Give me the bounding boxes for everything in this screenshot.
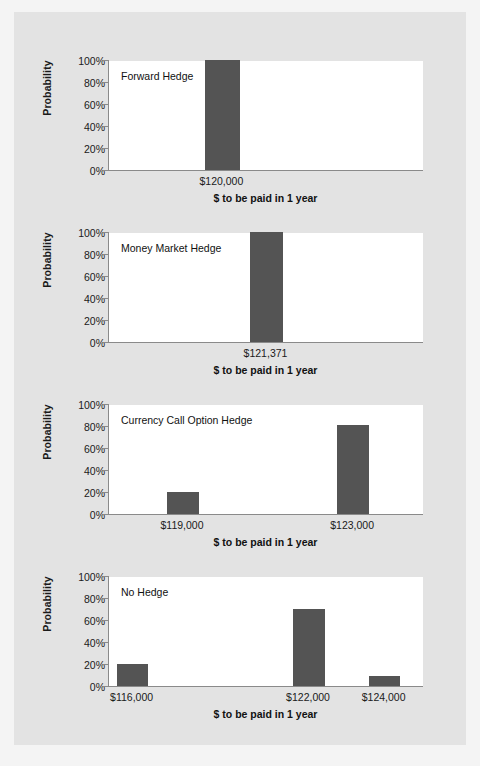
y-tick-mark: [103, 576, 109, 577]
y-tick-label: 60%: [52, 615, 105, 627]
x-tick-label: $122,000: [286, 691, 330, 703]
y-tick-label: 40%: [52, 293, 105, 305]
y-tick-label: 20%: [52, 143, 105, 155]
plot-area: No Hedge: [108, 577, 423, 687]
plot-title: Forward Hedge: [121, 70, 193, 82]
y-tick-mark: [103, 298, 109, 299]
x-axis-tick-labels: $121,371: [108, 347, 423, 363]
y-axis-tick-labels: 0%20%40%60%80%100%: [52, 405, 105, 515]
y-tick-mark: [103, 60, 109, 61]
y-tick-mark: [103, 342, 109, 343]
y-tick-label: 80%: [52, 77, 105, 89]
x-tick-label: $116,000: [110, 691, 153, 703]
plot-title: No Hedge: [121, 586, 168, 598]
x-axis-tick-labels: $116,000$122,000$124,000: [108, 691, 423, 707]
y-tick-label: 100%: [52, 227, 105, 239]
y-tick-mark: [103, 232, 109, 233]
y-tick-label: 80%: [52, 249, 105, 261]
bar: [167, 492, 199, 514]
plot-area: Currency Call Option Hedge: [108, 405, 423, 515]
y-tick-label: 60%: [52, 99, 105, 111]
y-tick-mark: [103, 492, 109, 493]
y-tick-label: 100%: [52, 55, 105, 67]
y-tick-mark: [103, 448, 109, 449]
y-tick-mark: [103, 82, 109, 83]
y-tick-label: 80%: [52, 421, 105, 433]
y-tick-label: 20%: [52, 659, 105, 671]
x-axis-title: $ to be paid in 1 year: [108, 708, 423, 720]
y-tick-mark: [103, 170, 109, 171]
bar: [250, 232, 283, 342]
plot-title: Currency Call Option Hedge: [121, 414, 252, 426]
y-tick-label: 100%: [52, 399, 105, 411]
chart-forward-hedge: Probability 0%20%40%60%80%100% Forward H…: [14, 34, 466, 204]
chart-money-market-hedge: Probability 0%20%40%60%80%100% Money Mar…: [14, 206, 466, 376]
y-tick-mark: [103, 254, 109, 255]
x-axis-title: $ to be paid in 1 year: [108, 536, 423, 548]
y-tick-mark: [103, 148, 109, 149]
y-tick-label: 20%: [52, 487, 105, 499]
x-axis-tick-labels: $120,000: [108, 175, 423, 191]
y-tick-mark: [103, 104, 109, 105]
y-tick-label: 40%: [52, 637, 105, 649]
y-tick-label: 60%: [52, 443, 105, 455]
y-tick-mark: [103, 470, 109, 471]
y-axis-tick-labels: 0%20%40%60%80%100%: [52, 61, 105, 171]
bar: [117, 664, 149, 686]
plot-area: Money Market Hedge: [108, 233, 423, 343]
y-tick-label: 0%: [52, 681, 105, 693]
y-tick-mark: [103, 642, 109, 643]
y-tick-mark: [103, 276, 109, 277]
x-axis-tick-labels: $119,000$123,000: [108, 519, 423, 535]
y-tick-label: 20%: [52, 315, 105, 327]
x-tick-label: $120,000: [199, 175, 243, 187]
y-tick-mark: [103, 320, 109, 321]
chart-currency-call-option-hedge: Probability 0%20%40%60%80%100% Currency …: [14, 378, 466, 548]
plot-title: Money Market Hedge: [121, 242, 221, 254]
y-tick-label: 60%: [52, 271, 105, 283]
y-tick-mark: [103, 404, 109, 405]
x-axis-title: $ to be paid in 1 year: [108, 192, 423, 204]
bar: [337, 425, 369, 514]
y-tick-label: 80%: [52, 593, 105, 605]
y-tick-label: 100%: [52, 571, 105, 583]
x-tick-label: $121,371: [244, 347, 288, 359]
y-tick-label: 0%: [52, 165, 105, 177]
figure-canvas: Probability 0%20%40%60%80%100% Forward H…: [0, 0, 480, 766]
y-tick-mark: [103, 514, 109, 515]
y-tick-mark: [103, 598, 109, 599]
y-tick-mark: [103, 126, 109, 127]
x-tick-label: $119,000: [161, 519, 204, 531]
y-axis-tick-labels: 0%20%40%60%80%100%: [52, 577, 105, 687]
y-tick-label: 0%: [52, 509, 105, 521]
y-tick-mark: [103, 620, 109, 621]
bar: [205, 60, 240, 170]
y-tick-label: 40%: [52, 465, 105, 477]
y-axis-tick-labels: 0%20%40%60%80%100%: [52, 233, 105, 343]
y-tick-mark: [103, 686, 109, 687]
x-axis-title: $ to be paid in 1 year: [108, 364, 423, 376]
y-tick-mark: [103, 664, 109, 665]
x-tick-label: $123,000: [330, 519, 374, 531]
x-tick-label: $124,000: [362, 691, 406, 703]
plot-area: Forward Hedge: [108, 61, 423, 171]
y-tick-mark: [103, 426, 109, 427]
y-tick-label: 0%: [52, 337, 105, 349]
figure-panel: Probability 0%20%40%60%80%100% Forward H…: [14, 12, 466, 745]
y-tick-label: 40%: [52, 121, 105, 133]
bar: [293, 609, 325, 686]
chart-no-hedge: Probability 0%20%40%60%80%100% No Hedge …: [14, 550, 466, 730]
bar: [369, 676, 401, 686]
